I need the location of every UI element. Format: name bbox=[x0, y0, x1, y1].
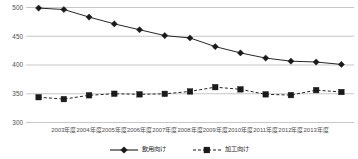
data-point-marker[interactable] bbox=[339, 89, 345, 95]
data-point-marker[interactable] bbox=[162, 32, 168, 38]
data-point-marker[interactable] bbox=[313, 59, 319, 65]
x-tick-label: 2006年度 bbox=[127, 126, 152, 134]
data-point-marker[interactable] bbox=[263, 55, 269, 61]
data-point-marker[interactable] bbox=[212, 84, 218, 90]
x-tick-label: 2004年度 bbox=[77, 126, 102, 134]
data-point-marker[interactable] bbox=[36, 94, 42, 100]
data-point-marker[interactable] bbox=[36, 5, 42, 11]
data-point-marker[interactable] bbox=[187, 89, 193, 95]
data-point-marker[interactable] bbox=[263, 92, 269, 98]
y-tick-label: 500 bbox=[12, 4, 23, 11]
data-point-marker[interactable] bbox=[288, 58, 294, 64]
y-tick-label: 400 bbox=[12, 61, 23, 68]
data-point-marker[interactable] bbox=[86, 92, 92, 98]
data-point-marker[interactable] bbox=[313, 87, 319, 93]
legend-label-processing: 加工向け bbox=[225, 146, 249, 152]
data-point-marker[interactable] bbox=[86, 14, 92, 20]
y-axis-tick-labels: 300350400450500 bbox=[12, 4, 23, 126]
data-point-marker[interactable] bbox=[112, 91, 118, 97]
line-chart-plot: 2003年度2004年度2005年度2006年度2007年度2008年度2009… bbox=[0, 0, 358, 159]
data-point-marker[interactable] bbox=[288, 92, 294, 98]
x-tick-label: 2003年度 bbox=[51, 126, 76, 134]
data-point-marker[interactable] bbox=[111, 21, 117, 27]
data-point-marker[interactable] bbox=[338, 61, 344, 67]
data-point-marker[interactable] bbox=[238, 87, 244, 93]
legend-label-drinking: 飲用向け bbox=[142, 146, 166, 152]
x-tick-label: 2005年度 bbox=[102, 126, 127, 134]
x-tick-label: 2007年度 bbox=[152, 126, 177, 134]
chart-container: 2003年度2004年度2005年度2006年度2007年度2008年度2009… bbox=[0, 0, 358, 159]
x-tick-label: 2012年度 bbox=[278, 126, 303, 134]
data-point-marker[interactable] bbox=[136, 27, 142, 33]
x-tick-label: 2011年度 bbox=[253, 126, 278, 134]
data-point-marker[interactable] bbox=[212, 44, 218, 50]
data-point-marker[interactable] bbox=[137, 92, 143, 98]
legend-marker-diamond-icon bbox=[109, 146, 139, 154]
y-tick-label: 450 bbox=[12, 33, 23, 40]
x-tick-label: 2013年度 bbox=[304, 126, 329, 134]
x-axis-tick-labels: 2003年度2004年度2005年度2006年度2007年度2008年度2009… bbox=[51, 126, 328, 134]
data-point-marker[interactable] bbox=[61, 96, 67, 102]
y-tick-label: 300 bbox=[12, 119, 23, 126]
x-tick-label: 2009年度 bbox=[203, 126, 228, 134]
data-point-marker[interactable] bbox=[187, 35, 193, 41]
data-point-marker[interactable] bbox=[162, 91, 168, 97]
legend-marker-square-icon bbox=[192, 146, 222, 154]
legend-entry-processing[interactable]: 加工向け bbox=[192, 146, 249, 154]
legend-entry-drinking[interactable]: 飲用向け bbox=[109, 146, 166, 154]
y-tick-label: 350 bbox=[12, 90, 23, 97]
x-tick-label: 2008年度 bbox=[177, 126, 202, 134]
gridlines-group bbox=[26, 8, 354, 123]
data-point-marker[interactable] bbox=[237, 50, 243, 56]
x-tick-label: 2010年度 bbox=[228, 126, 253, 134]
chart-legend: 飲用向け 加工向け bbox=[0, 140, 358, 159]
series-processing bbox=[36, 84, 344, 102]
